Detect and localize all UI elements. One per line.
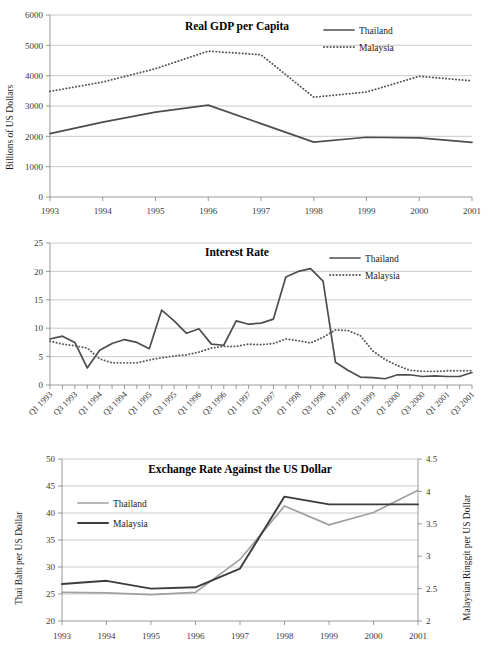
interest-ytick-label: 20	[34, 267, 44, 277]
interest-title: Interest Rate	[205, 246, 269, 258]
interest-xtick-label: Q1 1993	[26, 389, 54, 417]
interest-xtick-label: Q1 1999	[324, 389, 352, 417]
gdp-ytick-label: 1000	[25, 162, 44, 172]
interest-xtick-label: Q1 1998	[274, 389, 302, 417]
fx-legend-label-malaysia: Malaysia	[113, 519, 149, 529]
interest-gridlines	[50, 243, 472, 357]
fx-y2tick-label: 3	[426, 551, 431, 561]
gdp-xtick-label: 1994	[94, 206, 113, 216]
interest-legend: Thailand Malaysia	[330, 254, 401, 281]
interest-ytick-label: 5	[39, 352, 44, 362]
fx-ytick-label: 40	[46, 508, 56, 518]
interest-svg: 0510152025 Q1 1993Q3 1993Q1 1994Q3 1994Q…	[0, 230, 502, 445]
fx-y2-axis-title: Malaysian Ringgit per US Dollar	[462, 494, 472, 621]
fx-y2tick-label: 2	[426, 616, 431, 626]
fx-ytick-label: 30	[46, 562, 56, 572]
interest-ytick-label: 0	[39, 380, 44, 390]
interest-xtick-label: Q1 1997	[225, 389, 254, 418]
fx-y2tick-label: 2.5	[426, 584, 438, 594]
fx-xtick-label: 1993	[53, 631, 72, 641]
gdp-xtick-label: 1993	[41, 206, 60, 216]
interest-xtick-label: Q3 1994	[101, 389, 130, 418]
fx-xtick-label: 1995	[142, 631, 161, 641]
gdp-y-axis-title: Billions of US Dollars	[5, 84, 15, 170]
fx-series-malaysia	[62, 497, 418, 589]
interest-xtick-label: Q3 1998	[299, 389, 327, 417]
fx-y2tick-label: 3.5	[426, 519, 438, 529]
fx-ytick-label: 25	[46, 589, 56, 599]
fx-ytick-label: 35	[46, 535, 56, 545]
gdp-ytick-label: 4000	[25, 71, 44, 81]
gdp-xtick-label: 1999	[358, 206, 377, 216]
interest-xtick-label: Q3 1993	[51, 389, 79, 417]
gdp-ytick-label: 3000	[25, 101, 44, 111]
interest-xtick-label: Q3 2001	[448, 389, 476, 417]
gdp-xtick-label: 1997	[252, 206, 271, 216]
fx-title: Exchange Rate Against the US Dollar	[148, 463, 332, 476]
fx-yticks: 20253035404550	[46, 454, 62, 626]
gdp-title: Real GDP per Capita	[185, 20, 289, 33]
interest-series	[50, 269, 472, 379]
fx-y2ticks: 22.533.544.5	[418, 454, 438, 626]
gdp-gridlines	[50, 15, 472, 167]
fx-ytick-label: 20	[46, 616, 56, 626]
interest-legend-label-malaysia: Malaysia	[365, 271, 401, 281]
gdp-legend-label-malaysia: Malaysia	[359, 43, 395, 53]
fx-xtick-label: 2001	[409, 631, 427, 641]
gdp-series	[50, 51, 472, 142]
gdp-xtick-label: 1995	[147, 206, 166, 216]
gdp-ytick-label: 6000	[25, 10, 44, 20]
fx-xtick-label: 2000	[365, 631, 384, 641]
gdp-xtick-label: 1996	[199, 206, 218, 216]
interest-xtick-label: Q3 1999	[349, 389, 377, 417]
gdp-legend-label-thailand: Thailand	[359, 26, 393, 36]
chart-real-gdp-per-capita: 0100020003000400050006000 19931994199519…	[0, 0, 502, 230]
interest-series-malaysia	[50, 330, 472, 371]
interest-xtick-label: Q1 2001	[423, 389, 451, 417]
fx-ytick-label: 45	[46, 481, 56, 491]
gdp-ytick-label: 2000	[25, 132, 44, 142]
fx-legend: Thailand Malaysia	[78, 499, 149, 529]
interest-xtick-label: Q1 2000	[374, 389, 402, 417]
fx-xtick-label: 1998	[276, 631, 295, 641]
gdp-ytick-label: 0	[39, 192, 44, 202]
chart-exchange-rate: 20253035404550 22.533.544.5 199319941995…	[0, 445, 502, 664]
interest-xtick-label: Q3 1997	[250, 389, 279, 418]
interest-xticks: Q1 1993Q3 1993Q1 1994Q3 1994Q1 1995Q3 19…	[26, 385, 476, 418]
gdp-ytick-label: 5000	[25, 41, 44, 51]
fx-y-axis-title: Thai Baht per US Dollar	[14, 511, 24, 605]
interest-xtick-label: Q3 2000	[399, 389, 427, 417]
gdp-yticks: 0100020003000400050006000	[25, 10, 50, 202]
chart-interest-rate: 0510152025 Q1 1993Q3 1993Q1 1994Q3 1994Q…	[0, 230, 502, 445]
fx-xtick-label: 1999	[320, 631, 339, 641]
fx-xtick-label: 1997	[231, 631, 250, 641]
interest-xtick-label: Q1 1994	[76, 389, 105, 418]
interest-legend-label-thailand: Thailand	[365, 254, 399, 264]
fx-legend-label-thailand: Thailand	[113, 499, 147, 509]
fx-svg: 20253035404550 22.533.544.5 199319941995…	[0, 445, 502, 664]
gdp-series-malaysia	[50, 51, 472, 97]
gdp-xticks: 199319941995199619971998199920002001	[41, 197, 481, 216]
interest-ytick-label: 25	[34, 238, 44, 248]
interest-ytick-label: 10	[34, 323, 44, 333]
interest-xtick-label: Q1 1996	[175, 389, 204, 418]
interest-yticks: 0510152025	[34, 238, 50, 390]
fx-xtick-label: 1994	[98, 631, 117, 641]
interest-xtick-label: Q3 1995	[150, 389, 178, 417]
interest-xtick-label: Q3 1996	[200, 389, 229, 418]
gdp-xtick-label: 1998	[305, 206, 324, 216]
fx-y2tick-label: 4	[426, 487, 431, 497]
gdp-xtick-label: 2000	[410, 206, 429, 216]
fx-xtick-label: 1996	[187, 631, 206, 641]
fx-xticks: 199319941995199619971998199920002001	[53, 621, 427, 641]
gdp-series-thailand	[50, 105, 472, 142]
gdp-svg: 0100020003000400050006000 19931994199519…	[0, 0, 502, 230]
gdp-xtick-label: 2001	[463, 206, 481, 216]
interest-ytick-label: 15	[34, 295, 44, 305]
gdp-legend: Thailand Malaysia	[324, 26, 395, 53]
interest-xtick-label: Q1 1995	[126, 389, 154, 417]
fx-y2tick-label: 4.5	[426, 454, 438, 464]
fx-ytick-label: 50	[46, 454, 56, 464]
